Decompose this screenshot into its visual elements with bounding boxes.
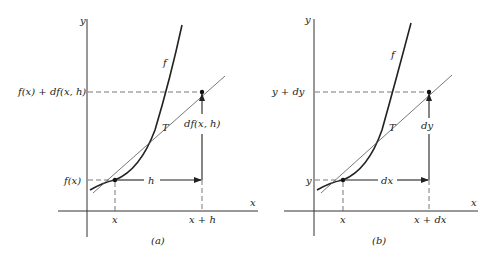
curve-label: f <box>162 57 169 68</box>
tangent-label: T <box>162 122 170 133</box>
y-axis-label: y <box>79 15 86 26</box>
tangent-label: T <box>389 122 397 133</box>
y-axis-label: y <box>304 14 311 25</box>
y-tick-lower: y <box>305 175 312 186</box>
df-label: df(x, h) <box>184 118 220 129</box>
function-curve <box>90 25 182 190</box>
x-tick-left: x <box>112 214 118 225</box>
function-curve <box>317 23 411 190</box>
curve-label: f <box>390 49 397 60</box>
dy-label: dy <box>421 120 433 131</box>
caption-b: (b) <box>372 235 386 246</box>
x-tick-right: x + h <box>189 214 216 225</box>
caption-a: (a) <box>151 235 165 246</box>
y-tick-upper: f(x) + df(x, h) <box>17 86 86 97</box>
y-tick-upper: y + dy <box>271 86 305 97</box>
differential-figure: y x f T h df(x, h) f(x) + df(x, h) f(x) … <box>0 0 490 261</box>
dx-label: dx <box>381 175 393 186</box>
tangent-line <box>93 76 225 193</box>
x-axis-label: x <box>250 197 256 208</box>
tangent-point <box>427 90 431 94</box>
panel-b: y x f T dx dy y + dy y x x + dx (b) <box>271 14 478 246</box>
panel-a: y x f T h df(x, h) f(x) + df(x, h) f(x) … <box>17 15 258 246</box>
x-tick-right: x + dx <box>414 214 447 225</box>
y-tick-lower: f(x) <box>63 175 81 186</box>
h-label: h <box>148 175 154 186</box>
x-tick-left: x <box>340 214 346 225</box>
tangent-point <box>200 90 204 94</box>
x-axis-label: x <box>471 197 477 208</box>
